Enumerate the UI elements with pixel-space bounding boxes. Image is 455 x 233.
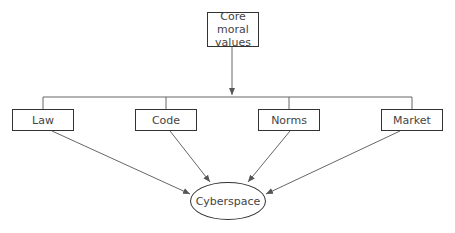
node-core-moral-values: Core moral values <box>207 12 259 47</box>
node-label: Cyberspace <box>196 195 261 208</box>
node-label-line-1: Core moral <box>208 10 258 36</box>
node-label-line-2: values <box>208 36 258 49</box>
node-label: Norms <box>271 114 307 127</box>
node-law: Law <box>12 109 74 131</box>
node-norms: Norms <box>258 109 320 131</box>
node-cyberspace: Cyberspace <box>190 182 266 220</box>
node-code: Code <box>135 109 197 131</box>
node-label: Law <box>32 114 54 127</box>
node-label: Market <box>393 114 431 127</box>
node-market: Market <box>381 109 443 131</box>
node-label: Code <box>152 114 180 127</box>
